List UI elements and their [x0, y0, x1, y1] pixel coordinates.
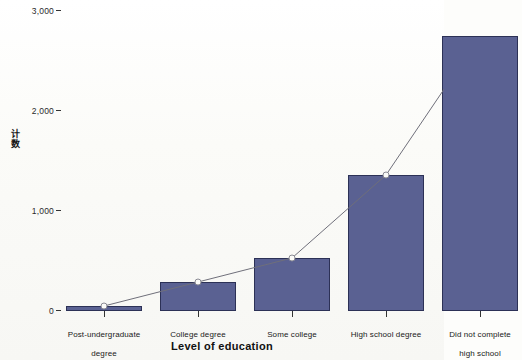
trend-line	[104, 36, 444, 306]
x-tick-5	[480, 311, 481, 317]
bar-did-not-complete-high-school[interactable]	[442, 36, 518, 311]
x-axis-title: Level of education	[0, 340, 444, 352]
line-marker-post-undergraduate-degree[interactable]	[101, 303, 107, 309]
x-label-line-1: Some college	[244, 330, 340, 340]
x-label-line-1: College degree	[150, 330, 246, 340]
x-label-line-1: Post-undergraduate	[56, 330, 152, 340]
x-label-line-1: Did not complete	[432, 330, 522, 340]
x-label-line-2: high school	[432, 349, 522, 359]
x-tick-3	[292, 311, 293, 317]
x-label-line-1: High school degree	[338, 330, 434, 340]
x-label-did-not-complete-high-school: Did not complete high school	[432, 320, 522, 360]
line-marker-college-degree[interactable]	[195, 279, 201, 285]
line-marker-high-school-degree[interactable]	[383, 172, 389, 178]
x-tick-1	[104, 311, 105, 317]
x-tick-4	[386, 311, 387, 317]
x-tick-2	[198, 311, 199, 317]
line-marker-some-college[interactable]	[289, 255, 295, 261]
